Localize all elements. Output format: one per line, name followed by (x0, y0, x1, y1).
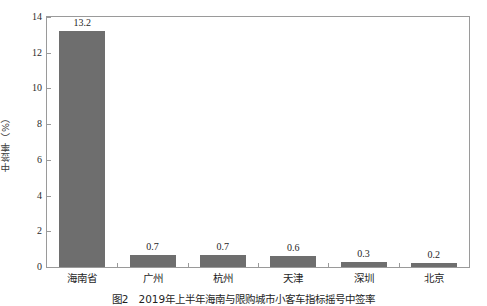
plot-area: 13.20.70.70.60.30.2 (46, 16, 470, 268)
x-axis-category-label: 杭州 (183, 272, 263, 284)
y-axis-tick-mark (47, 231, 51, 232)
x-axis-category-label: 深圳 (324, 272, 404, 284)
bar (130, 255, 176, 268)
bar (411, 263, 457, 267)
y-axis-tick-label: 12 (20, 48, 42, 58)
bar-value-label: 0.3 (334, 249, 394, 259)
y-axis-tick-label: 8 (20, 119, 42, 129)
bar (200, 255, 246, 268)
y-axis-tick-mark (47, 17, 51, 18)
bar-value-label: 13.2 (52, 18, 112, 28)
x-axis-tick-mark (258, 263, 259, 267)
y-axis-tick-mark (47, 88, 51, 89)
y-axis-tick-mark (47, 160, 51, 161)
plot-inner-surface: 13.20.70.70.60.30.2 (47, 17, 469, 267)
y-axis-tick-mark (47, 196, 51, 197)
x-axis-tick-mark (399, 263, 400, 267)
x-axis-category-label: 海南省 (42, 272, 122, 284)
bar (270, 256, 316, 267)
x-axis-category-label: 北京 (394, 272, 474, 284)
y-axis-tick-label: 14 (20, 12, 42, 22)
bar-value-label: 0.7 (123, 242, 183, 252)
x-axis-tick-mark (117, 263, 118, 267)
y-axis-tick-label: 6 (20, 155, 42, 165)
y-axis-tick-mark (47, 267, 51, 268)
bar-value-label: 0.2 (404, 250, 464, 260)
y-axis-tick-label: 10 (20, 83, 42, 93)
bar-value-label: 0.7 (193, 242, 253, 252)
x-axis-category-label: 天津 (253, 272, 333, 284)
figure-caption: 图2 2019年上半年海南与限购城市小客车指标摇号中签率 (0, 293, 487, 306)
bar (341, 262, 387, 267)
y-axis-tick-labels: 02468101214 (18, 0, 42, 303)
x-axis-tick-mark (188, 263, 189, 267)
x-axis-tick-mark (328, 263, 329, 267)
bar (59, 31, 105, 267)
x-axis-category-label: 广州 (113, 272, 193, 284)
y-axis-tick-label: 0 (20, 262, 42, 272)
y-axis-tick-mark (47, 53, 51, 54)
bar-value-label: 0.6 (263, 243, 323, 253)
y-axis-tick-mark (47, 124, 51, 125)
y-axis-title: 中签率（%） (1, 96, 17, 188)
y-axis-tick-label: 4 (20, 191, 42, 201)
y-axis-tick-label: 2 (20, 226, 42, 236)
